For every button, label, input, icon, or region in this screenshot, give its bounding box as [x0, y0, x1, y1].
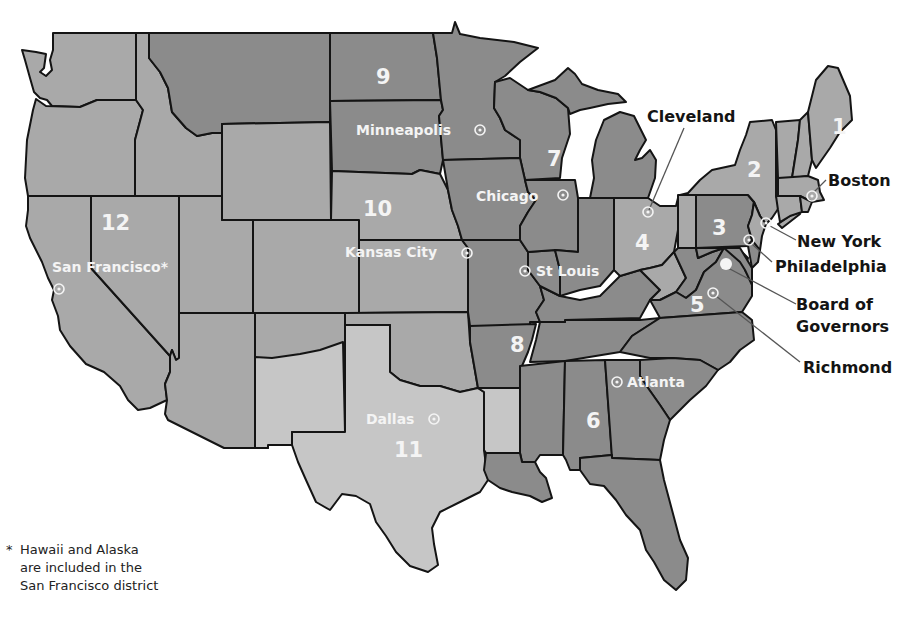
state-wyoming: [222, 122, 331, 220]
label-kansas-city: Kansas City: [345, 244, 437, 260]
footnote-asterisk: *: [6, 541, 20, 559]
label-new-york: New York: [797, 232, 882, 251]
label-minneapolis: Minneapolis: [356, 122, 451, 138]
district-number-7: 7: [547, 147, 562, 171]
state-washington: [22, 33, 136, 107]
state-arizona: [165, 313, 255, 448]
district-number-11: 11: [394, 438, 423, 462]
us-federal-reserve-map: 1 2 3 4 5 6 7 8 9 10 11 12 Minneapolis C…: [0, 0, 900, 617]
district-number-5: 5: [690, 293, 705, 317]
label-atlanta: Atlanta: [627, 374, 685, 390]
state-oregon: [25, 99, 143, 196]
label-philadelphia: Philadelphia: [775, 257, 887, 276]
district-number-3: 3: [712, 216, 727, 240]
state-louisiana-north: [478, 388, 520, 453]
footnote-line-2: are included in the: [6, 559, 158, 577]
state-louisiana: [484, 453, 552, 502]
label-cleveland: Cleveland: [647, 107, 735, 126]
district-number-2: 2: [747, 158, 762, 182]
label-board-line1: Board of: [796, 295, 874, 314]
district-number-10: 10: [363, 197, 392, 221]
district-number-4: 4: [635, 231, 650, 255]
label-st-louis: St Louis: [536, 263, 599, 279]
footnote-line-1: Hawaii and Alaska: [20, 542, 139, 557]
footnote-line-3: San Francisco district: [6, 577, 158, 595]
district-number-6: 6: [586, 409, 601, 433]
state-mississippi: [520, 361, 565, 462]
state-pennsylvania-west: [678, 195, 696, 248]
district-number-1: 1: [832, 115, 847, 139]
footnote: *Hawaii and Alaska are included in the S…: [6, 541, 158, 595]
label-dallas: Dallas: [366, 411, 414, 427]
district-1-region: [776, 66, 852, 222]
district-number-9: 9: [376, 65, 391, 89]
state-colorado: [253, 220, 359, 313]
district-number-12: 12: [101, 211, 130, 235]
label-san-francisco: San Francisco*: [52, 259, 169, 275]
label-board-line2: Governors: [796, 317, 889, 336]
district-number-8: 8: [510, 333, 525, 357]
state-florida: [580, 455, 688, 590]
board-of-governors-marker-icon: [720, 258, 732, 270]
label-boston: Boston: [828, 171, 891, 190]
label-richmond: Richmond: [803, 358, 892, 377]
label-chicago: Chicago: [476, 188, 539, 204]
